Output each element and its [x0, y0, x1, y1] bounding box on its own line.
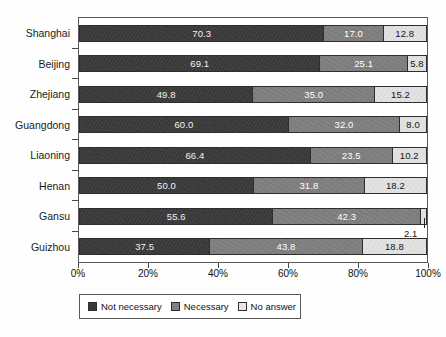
bar-row: 50.031.818.2	[79, 177, 427, 194]
bar-row: 55.642.32.1	[79, 208, 427, 225]
bar-row: 70.317.012.8	[79, 25, 427, 42]
bar-value-label: 69.1	[190, 58, 209, 69]
bar-segment: 35.0	[252, 86, 374, 103]
legend-label: Necessary	[184, 301, 229, 312]
category-tick	[72, 170, 79, 171]
bar-segment: 55.6	[79, 208, 272, 225]
bar-row: 49.835.015.2	[79, 86, 427, 103]
category-label-zhejiang: Zhejiang	[30, 87, 70, 101]
category-tick	[72, 109, 79, 110]
category-label-beijing: Beijing	[38, 57, 70, 71]
category-label-gansu: Gansu	[39, 209, 70, 223]
category-tick	[72, 78, 79, 79]
legend-label: No answer	[251, 301, 296, 312]
bar-value-label: 31.8	[299, 180, 318, 191]
bar-row: 37.543.818.8	[79, 238, 427, 255]
legend-item[interactable]: Not necessary	[88, 301, 162, 312]
bar-segment: 2.1	[420, 208, 427, 225]
legend-label: Not necessary	[101, 301, 162, 312]
chart-legend: Not necessaryNecessaryNo answer	[79, 294, 301, 319]
bar-segment: 18.2	[364, 177, 427, 194]
category-label-guizhou: Guizhou	[31, 240, 70, 254]
category-tick	[72, 48, 79, 49]
bar-value-label: 50.0	[157, 180, 176, 191]
bar-value-label: 18.8	[385, 241, 404, 252]
bar-value-label: 70.3	[192, 28, 211, 39]
bar-value-label: 66.4	[185, 150, 204, 161]
bar-value-label: 8.0	[406, 119, 420, 130]
bar-segment: 17.0	[323, 25, 382, 42]
value-tick-label: 80%	[335, 268, 381, 279]
bar-segment: 66.4	[79, 147, 310, 164]
bar-segment: 70.3	[79, 25, 323, 42]
bar-segment: 8.0	[399, 116, 427, 133]
bar-value-label: 5.8	[410, 58, 424, 69]
bar-value-label: 32.0	[335, 119, 354, 130]
bar-value-label: 49.8	[157, 89, 176, 100]
bar-value-label: 55.6	[167, 211, 186, 222]
bar-segment: 12.8	[383, 25, 427, 42]
bar-value-label: 25.1	[354, 58, 373, 69]
category-axis: ShanghaiBeijingZhejiangGuangdongLiaoning…	[0, 17, 74, 263]
annotation-gansu-no-answer: 2.1	[404, 228, 417, 239]
bar-segment: 15.2	[374, 86, 427, 103]
category-tick	[72, 200, 79, 201]
legend-swatch-icon	[88, 302, 97, 311]
value-tick-label: 100%	[405, 268, 446, 279]
bar-segment: 49.8	[79, 86, 252, 103]
legend-item[interactable]: Necessary	[171, 301, 229, 312]
value-tick-label: 0%	[55, 268, 101, 279]
value-tick-label: 40%	[195, 268, 241, 279]
bar-value-label: 42.3	[337, 211, 356, 222]
legend-swatch-icon	[171, 302, 180, 311]
bar-segment: 69.1	[79, 55, 319, 72]
bar-value-label: 23.5	[342, 150, 361, 161]
bar-value-label: 37.5	[135, 241, 154, 252]
legend-item[interactable]: No answer	[238, 301, 296, 312]
bar-row: 66.423.510.2	[79, 147, 427, 164]
bar-segment: 18.8	[362, 238, 427, 255]
bar-value-label: 10.2	[400, 150, 419, 161]
bar-segment: 37.5	[79, 238, 209, 255]
bar-value-label: 60.0	[174, 119, 193, 130]
bar-value-label: 43.8	[277, 241, 296, 252]
bar-segment: 31.8	[253, 177, 364, 194]
bar-segment: 60.0	[79, 116, 288, 133]
stacked-bar-chart: ShanghaiBeijingZhejiangGuangdongLiaoning…	[0, 0, 446, 337]
bar-value-label: 15.2	[391, 89, 410, 100]
bar-value-label: 18.2	[386, 180, 405, 191]
category-tick	[72, 139, 79, 140]
bar-segment: 25.1	[319, 55, 406, 72]
bar-row: 60.032.08.0	[79, 116, 427, 133]
legend-swatch-icon	[238, 302, 247, 311]
bar-segment: 50.0	[79, 177, 253, 194]
bar-segment: 43.8	[209, 238, 361, 255]
category-label-shanghai: Shanghai	[26, 26, 70, 40]
bar-value-label: 17.0	[344, 28, 363, 39]
category-label-henan: Henan	[39, 179, 70, 193]
value-tick-label: 60%	[265, 268, 311, 279]
bar-segment: 23.5	[310, 147, 392, 164]
value-axis-labels: 0%20%40%60%80%100%	[0, 268, 446, 282]
bar-segment: 32.0	[288, 116, 399, 133]
category-label-guangdong: Guangdong	[15, 118, 70, 132]
bar-value-label: 35.0	[304, 89, 323, 100]
bar-segment: 5.8	[407, 55, 427, 72]
bar-row: 69.125.15.8	[79, 55, 427, 72]
category-label-liaoning: Liaoning	[30, 148, 70, 162]
category-tick	[72, 231, 79, 232]
bar-value-label: 12.8	[395, 28, 414, 39]
bar-segment: 42.3	[272, 208, 419, 225]
value-tick-label: 20%	[125, 268, 171, 279]
bar-segment: 10.2	[392, 147, 427, 164]
bars-layer: 70.317.012.869.125.15.849.835.015.260.03…	[79, 18, 427, 262]
